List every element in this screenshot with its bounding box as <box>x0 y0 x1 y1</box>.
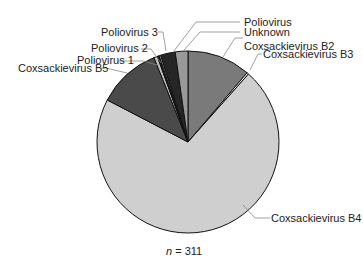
pie-slices <box>97 51 279 233</box>
n-value: = 311 <box>172 245 202 257</box>
sample-size-annotation: n = 311 <box>166 245 202 257</box>
label-poliovirus-1: Poliovirus 1 <box>77 54 134 66</box>
label-poliovirus-2: Poliovirus 2 <box>91 42 148 54</box>
pie-chart: Poliovirus Unknown Coxsackievirus B2 Cox… <box>0 0 363 268</box>
label-coxsackievirus-b4: Coxsackievirus B4 <box>271 212 361 224</box>
label-poliovirus-3: Poliovirus 3 <box>101 26 158 38</box>
label-coxsackievirus-b3: Coxsackievirus B3 <box>263 48 353 60</box>
label-unknown: Unknown <box>244 26 290 38</box>
